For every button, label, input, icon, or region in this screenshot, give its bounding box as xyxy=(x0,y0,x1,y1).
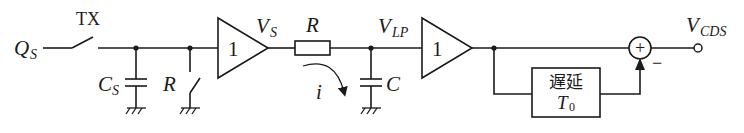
svg-text:C: C xyxy=(98,72,113,96)
svg-text:i: i xyxy=(316,80,322,104)
svg-text:1: 1 xyxy=(228,37,239,61)
tx-label: TX xyxy=(76,9,100,29)
input-label: Q S xyxy=(14,36,37,62)
svg-text:R: R xyxy=(305,13,319,37)
svg-text:V: V xyxy=(686,13,701,37)
transfer-switch: TX xyxy=(43,9,136,48)
svg-text:C: C xyxy=(386,72,401,96)
svg-text:1: 1 xyxy=(432,37,443,61)
lowpass-capacitor: C xyxy=(360,45,401,114)
ground-icon xyxy=(361,108,381,114)
svg-text:CDS: CDS xyxy=(700,24,726,39)
svg-text:S: S xyxy=(112,83,119,98)
svg-text:遅延: 遅延 xyxy=(549,73,583,92)
summing-junction: + − xyxy=(629,37,662,73)
svg-text:0: 0 xyxy=(569,100,575,114)
svg-text:S: S xyxy=(30,47,37,62)
sense-capacitor: C S xyxy=(98,45,147,114)
current-arrow: i xyxy=(303,64,344,104)
delay-path: 遅延 T 0 xyxy=(491,45,645,117)
buffer-amplifier-2: 1 xyxy=(422,18,472,78)
svg-text:Q: Q xyxy=(14,36,29,60)
svg-text:LP: LP xyxy=(391,25,409,40)
reset-switch: R xyxy=(162,45,200,114)
svg-text:+: + xyxy=(635,38,645,58)
ground-icon xyxy=(126,108,146,114)
svg-text:S: S xyxy=(270,25,277,40)
resistor: R xyxy=(295,13,330,55)
svg-text:V: V xyxy=(378,14,393,38)
minus-sign: − xyxy=(652,53,662,73)
vcds-label: V CDS xyxy=(686,13,726,39)
delay-t0-label: T 0 xyxy=(557,92,575,114)
cds-circuit-diagram: Q S TX C S xyxy=(0,0,744,133)
ground-icon xyxy=(180,108,200,114)
svg-text:T: T xyxy=(557,92,569,113)
vs-label: V S xyxy=(256,14,277,40)
svg-text:V: V xyxy=(256,14,271,38)
output-terminal xyxy=(694,44,702,52)
svg-text:R: R xyxy=(162,72,176,96)
vlp-label: V LP xyxy=(378,14,409,40)
